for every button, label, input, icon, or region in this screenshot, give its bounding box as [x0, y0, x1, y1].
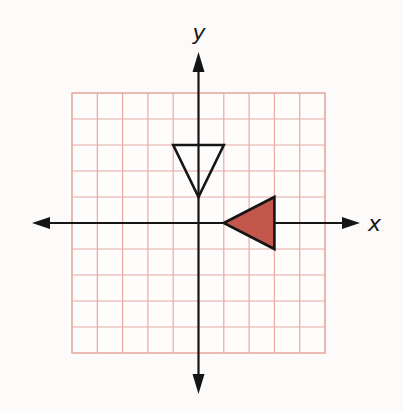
x-axis-negative-arrow-icon	[32, 217, 50, 229]
x-axis-positive-arrow-icon	[342, 217, 360, 229]
coordinate-plane-diagram: x y	[0, 0, 403, 412]
y-axis-positive-arrow-icon	[193, 52, 205, 72]
y-axis-negative-arrow-icon	[193, 374, 205, 394]
x-axis-label: x	[367, 211, 382, 236]
y-axis-label: y	[192, 20, 207, 45]
